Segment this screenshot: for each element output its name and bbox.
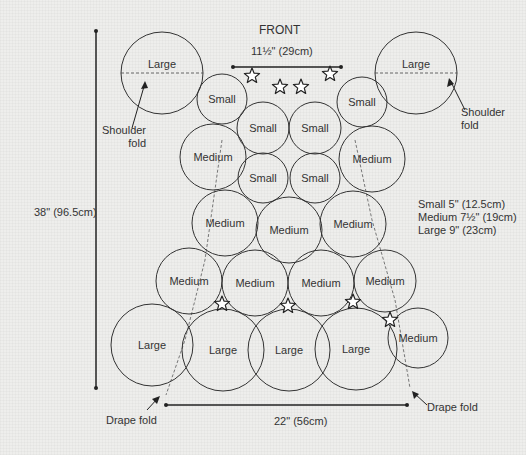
flower-tie-icon	[322, 66, 337, 81]
circle-label: Medium	[193, 151, 232, 164]
circle-label: Large	[148, 58, 176, 71]
circle-label: Medium	[333, 218, 372, 231]
circle-label: Medium	[398, 332, 437, 345]
circle-label: Small	[301, 122, 329, 135]
circle-label: Large	[209, 344, 237, 357]
drape-fold-right-label: Drape fold	[427, 401, 478, 414]
legend-medium: Medium 7½" (19cm)	[418, 211, 517, 224]
circle-label: Medium	[301, 277, 340, 290]
circle-label: Medium	[365, 275, 404, 288]
shoulder-fold-left-label: Shoulder fold	[102, 124, 146, 150]
shoulder-fold-right-label: Shoulder fold	[461, 106, 505, 132]
top-width-label: 11½" (29cm)	[251, 45, 313, 58]
flower-tie-icon	[244, 68, 259, 83]
drape-fold-line-left	[166, 140, 222, 395]
circle-label: Small	[208, 93, 236, 106]
flower-tie-icon	[272, 79, 287, 94]
diagram-title: FRONT	[259, 24, 300, 37]
circle-label: Large	[138, 339, 166, 352]
legend-large: Large 9" (23cm)	[418, 224, 497, 237]
flower-tie-icon	[382, 312, 397, 327]
diagram-canvas: FRONT 11½" (29cm) 38" (96.5cm) 22" (56cm…	[0, 0, 526, 455]
circle-label: Large	[402, 58, 430, 71]
bottom-width-label: 22" (56cm)	[274, 415, 327, 428]
circle-label: Large	[342, 343, 370, 356]
drape-fold-left-label: Drape fold	[106, 414, 157, 427]
circle-label: Medium	[169, 275, 208, 288]
circle-label: Medium	[352, 153, 391, 166]
height-label: 38" (96.5cm)	[34, 206, 97, 219]
circle-label: Small	[301, 172, 329, 185]
circle-label: Small	[249, 122, 277, 135]
circle-label: Large	[275, 344, 303, 357]
legend-small: Small 5" (12.5cm)	[418, 198, 505, 211]
circle-label: Medium	[205, 217, 244, 230]
circle-label: Small	[249, 172, 277, 185]
circle-label: Medium	[235, 277, 274, 290]
flower-tie-icon	[293, 79, 308, 94]
circle-label: Medium	[269, 224, 308, 237]
circle-label: Small	[348, 96, 376, 109]
